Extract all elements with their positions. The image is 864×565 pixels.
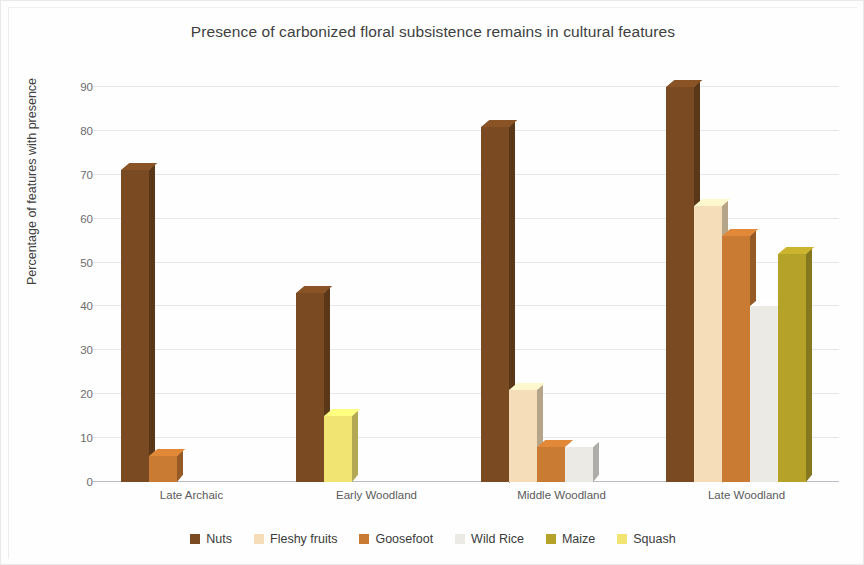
bar [565,447,593,482]
plot-area: 0102030405060708090 Late ArchaicEarly Wo… [99,87,839,482]
bar-group: Late Archaic [99,87,284,482]
bar [722,236,750,482]
legend-label: Nuts [206,532,232,546]
chart-title: Presence of carbonized floral subsistenc… [1,23,864,41]
legend-swatch-icon [254,534,264,544]
bar-face [722,236,750,482]
bar-group: Early Woodland [284,87,469,482]
legend-label: Goosefoot [375,532,433,546]
bar [509,390,537,482]
legend-item[interactable]: Nuts [190,532,232,546]
legend-item[interactable]: Maize [546,532,595,546]
y-axis-tick-label: 70 [63,169,93,181]
y-axis-tick-label: 40 [63,300,93,312]
bar-side [806,247,812,482]
y-axis-tick-label: 30 [63,344,93,356]
legend-label: Fleshy fruits [270,532,337,546]
bar-face [778,254,806,482]
bar [666,87,694,482]
legend-swatch-icon [546,534,556,544]
legend-label: Wild Rice [471,532,524,546]
chart-page: Presence of carbonized floral subsistenc… [0,0,864,565]
x-axis-category-label: Late Woodland [647,489,847,501]
legend-label: Squash [633,532,675,546]
bar [481,127,509,483]
legend-swatch-icon [617,534,627,544]
y-axis-tick-label: 10 [63,432,93,444]
y-axis-tick-label: 60 [63,213,93,225]
y-axis-tick-label: 90 [63,81,93,93]
y-axis-label: Percentage of features with presence [25,78,39,285]
legend-item[interactable]: Goosefoot [359,532,433,546]
bar-face [324,416,352,482]
bar-face [666,87,694,482]
legend-item[interactable]: Squash [617,532,675,546]
y-axis-tick-label: 80 [63,125,93,137]
bar-face [537,447,565,482]
bar-group: Middle Woodland [469,87,654,482]
bar-face [509,390,537,482]
bar [694,206,722,483]
chart-legend: NutsFleshy fruitsGoosefootWild RiceMaize… [1,532,864,546]
legend-swatch-icon [190,534,200,544]
bar-face [121,170,149,482]
bar [296,293,324,482]
bar [149,456,177,482]
legend-item[interactable]: Fleshy fruits [254,532,337,546]
bar-side [149,163,155,482]
x-axis-category-label: Early Woodland [277,489,477,501]
bar [324,416,352,482]
y-axis-tick-label: 20 [63,388,93,400]
bar-face [694,206,722,483]
y-axis-tick-label: 50 [63,257,93,269]
bar [750,306,778,482]
bar-side [352,409,358,482]
legend-label: Maize [562,532,595,546]
bar-group: Late Woodland [654,87,839,482]
bar-face [750,306,778,482]
bar [537,447,565,482]
x-axis-category-label: Middle Woodland [462,489,662,501]
bar-face [481,127,509,483]
legend-item[interactable]: Wild Rice [455,532,524,546]
legend-swatch-icon [455,534,465,544]
bar-face [296,293,324,482]
x-axis-category-label: Late Archaic [92,489,292,501]
bar-face [149,456,177,482]
bar [778,254,806,482]
y-axis-tick-label: 0 [63,476,93,488]
legend-swatch-icon [359,534,369,544]
bar-face [565,447,593,482]
bar [121,170,149,482]
